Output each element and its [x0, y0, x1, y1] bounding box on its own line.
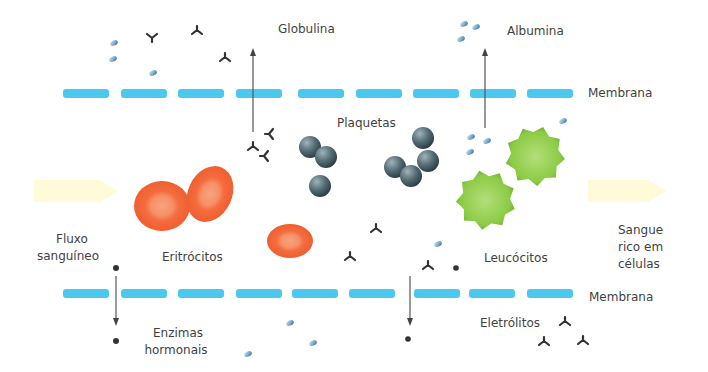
platelet-icon [315, 146, 337, 168]
label-globulina: Globulina [278, 22, 335, 36]
flow-arrow-left-icon [34, 180, 118, 202]
antibody-icon [248, 142, 258, 150]
antibody-icon [265, 129, 273, 139]
albumin-icon [558, 117, 567, 125]
membrane-segment [63, 289, 109, 298]
electrolyte-icon [453, 265, 459, 271]
membrane-segment [236, 289, 282, 298]
membrane-top [63, 89, 573, 98]
label-membrana-bottom: Membrana [589, 290, 653, 304]
albumin-icon [459, 20, 468, 28]
label-albumina: Albumina [507, 24, 564, 38]
antibody-icon [220, 53, 230, 61]
electrolyte-icon [113, 265, 119, 271]
membrane-segment [63, 89, 109, 98]
label-sanguineo: sanguíneo [37, 249, 99, 263]
antibody-icon [423, 261, 433, 269]
antibody-icon [578, 336, 588, 344]
membrane-bottom [63, 289, 573, 298]
albumin-icon [308, 339, 317, 347]
label-leucocitos: Leucócitos [484, 251, 548, 265]
antibody-icon [192, 26, 202, 34]
albumin-icon [471, 23, 480, 31]
albumin-icon [482, 137, 491, 145]
membrane-segment [178, 89, 224, 98]
albumin-icon [466, 133, 475, 141]
albumin-icon [433, 240, 442, 248]
label-hormonais: hormonais [144, 343, 207, 357]
leukocyte-icon [456, 171, 515, 230]
membrane-segment [121, 289, 167, 298]
membrane-segment [178, 289, 224, 298]
membrane-segment [349, 289, 395, 298]
platelet-icon [412, 127, 434, 149]
erythrocyte-icon [267, 224, 313, 258]
membrane-segment [413, 89, 459, 98]
albumin-icon [465, 148, 474, 156]
albumin-icon [109, 39, 118, 47]
membrane-segment [470, 89, 516, 98]
antibody-icon [371, 224, 381, 232]
label-fluxo: Fluxo [56, 232, 88, 246]
albumin-icon [108, 55, 117, 63]
antibody-icon [345, 252, 355, 260]
label-eletrolitos: Eletrólitos [480, 316, 540, 330]
membrane-segment [121, 89, 167, 98]
blood-filtration-diagram: Globulina Albumina Membrana Plaquetas Fl… [0, 0, 708, 372]
membrane-segment [469, 289, 515, 298]
membrane-segment [298, 89, 344, 98]
flow-arrow-right-icon [588, 180, 666, 202]
membrane-segment [527, 289, 573, 298]
label-sangue: Sangue [618, 223, 663, 237]
erythrocyte-icon [178, 158, 242, 229]
antibody-icon [539, 337, 549, 345]
platelet-icon [417, 150, 439, 172]
electrolyte-icon [113, 338, 119, 344]
erythrocyte-icon [134, 181, 190, 231]
platelet-icon [309, 175, 331, 197]
label-plaquetas: Plaquetas [337, 116, 396, 130]
electrolyte-icon [405, 336, 411, 342]
membrane-segment [236, 89, 282, 98]
platelet-icon [400, 165, 422, 187]
membrane-segment [356, 89, 402, 98]
label-celulas: células [618, 257, 660, 271]
label-enzimas: Enzimas [153, 326, 203, 340]
antibody-icon [560, 317, 570, 325]
antibody-icon [260, 151, 268, 161]
label-rico-em: rico em [618, 240, 663, 254]
albumin-icon [243, 350, 252, 358]
membrane-segment [414, 289, 460, 298]
albumin-icon [456, 35, 465, 43]
antibody-icon [147, 34, 157, 42]
label-membrana-top: Membrana [588, 86, 652, 100]
albumin-icon [148, 69, 157, 77]
albumin-icon [285, 319, 294, 327]
label-eritrocitos: Eritrócitos [162, 250, 223, 264]
membrane-segment [292, 289, 338, 298]
membrane-segment [527, 89, 573, 98]
leukocyte-icon [506, 127, 565, 186]
